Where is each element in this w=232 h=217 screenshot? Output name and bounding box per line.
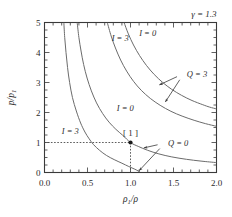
x-axis-label: ρ1/ρ	[122, 194, 138, 205]
x-tick-label: 1.0	[125, 178, 137, 188]
reference-point-label: [ 1 ]	[123, 128, 138, 138]
annotation-label-q-3: Q = 3	[187, 69, 207, 79]
x-tick-label: 2.0	[211, 178, 223, 188]
chart-svg: 0.00.51.01.52.0012345ρ1/ρp/p1γ = 1.3I = …	[0, 0, 232, 217]
curve-label-i-0: I = 0	[116, 103, 135, 113]
y-tick-label: 1	[36, 138, 41, 148]
y-tick-label: 4	[36, 48, 41, 58]
x-tick-label: 0.5	[82, 178, 94, 188]
curve-label-i-0: I = 0	[138, 28, 157, 38]
annotation-label-q-0: Q = 0	[168, 138, 189, 148]
y-tick-label: 2	[36, 108, 41, 118]
curve-label-i-3: I = 3	[111, 33, 129, 43]
x-tick-label: 1.5	[168, 178, 180, 188]
figure-container: 0.00.51.01.52.0012345ρ1/ρp/p1γ = 1.3I = …	[0, 0, 232, 217]
y-tick-label: 5	[36, 18, 41, 28]
curve-label-i-3: I = 3	[61, 126, 79, 136]
reference-point-marker	[128, 140, 132, 144]
y-tick-label: 3	[36, 78, 41, 88]
y-tick-label: 0	[36, 168, 41, 178]
x-tick-label: 0.0	[39, 178, 51, 188]
gamma-annotation: γ = 1.3	[191, 9, 217, 19]
